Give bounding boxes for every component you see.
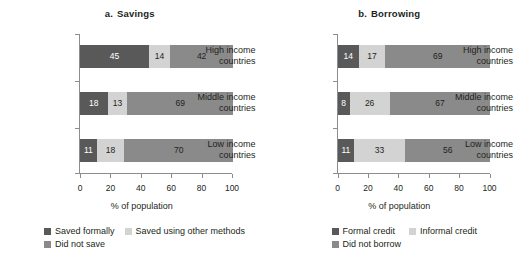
y-tick (75, 81, 79, 82)
legend-item-saved-formally: Saved formally (44, 226, 115, 236)
panel-letter: b. (358, 8, 367, 19)
legend-savings: Saved formally Saved using other methods… (44, 226, 260, 252)
x-tick-label: 0 (335, 183, 340, 193)
x-tick (490, 174, 491, 178)
legend-label: Did not save (55, 239, 105, 249)
panel-title-savings: a.Savings (0, 8, 260, 19)
legend-item-informal-credit: Informal credit (409, 226, 477, 236)
legend-label: Saved formally (55, 226, 115, 236)
stacked-bar-figure: a.Savings 0 20 40 60 80 100 45 14 (0, 0, 519, 263)
legend-swatch-icon (44, 228, 51, 235)
legend-swatch-icon (332, 228, 339, 235)
legend-label: Formal credit (343, 226, 396, 236)
category-label-line: countries (435, 103, 513, 114)
panel-savings: a.Savings 0 20 40 60 80 100 45 14 (0, 0, 260, 263)
legend-swatch-icon (332, 241, 339, 248)
x-tick-label: 20 (363, 183, 372, 193)
panel-title-text: Borrowing (371, 8, 420, 19)
bar-segment: 45 (80, 45, 149, 68)
x-axis-title: % of population (0, 201, 260, 211)
x-tick (80, 174, 81, 178)
legend-item-did-not-save: Did not save (44, 239, 105, 249)
y-tick (75, 128, 79, 129)
y-tick (75, 34, 79, 35)
x-tick (232, 174, 233, 178)
bar-segment: 14 (149, 45, 170, 68)
bar-segment: 11 (338, 139, 355, 162)
y-tick (75, 173, 79, 174)
legend-swatch-icon (125, 228, 132, 235)
category-label-line: countries (178, 150, 256, 161)
category-label-line: High income (435, 45, 513, 56)
legend-item-saved-other: Saved using other methods (125, 226, 246, 236)
x-tick (202, 174, 203, 178)
legend-item-formal-credit: Formal credit (332, 226, 396, 236)
bar-segment: 17 (359, 45, 385, 68)
category-label-line: countries (178, 56, 256, 67)
x-tick-label: 60 (424, 183, 433, 193)
legend-row: Did not borrow (332, 239, 519, 249)
x-tick (429, 174, 430, 178)
bar-segment: 26 (350, 92, 390, 115)
x-tick-label: 40 (136, 183, 145, 193)
x-tick-label: 80 (454, 183, 463, 193)
category-label-middle-income: Middle income countries (435, 92, 513, 114)
category-label-line: countries (435, 150, 513, 161)
bar-segment: 33 (354, 139, 404, 162)
panel-letter: a. (105, 8, 113, 19)
category-label-high-income: High income countries (178, 45, 256, 67)
bar-segment: 13 (108, 92, 128, 115)
legend-swatch-icon (409, 228, 416, 235)
panel-title-text: Savings (117, 8, 155, 19)
panel-borrowing: b.Borrowing 0 20 40 60 80 100 14 17 (260, 0, 519, 263)
legend-item-did-not-borrow: Did not borrow (332, 239, 402, 249)
category-label-line: countries (435, 56, 513, 67)
bar-segment: 18 (80, 92, 108, 115)
y-tick (333, 128, 337, 129)
x-tick-label: 60 (166, 183, 175, 193)
category-label-line: countries (178, 103, 256, 114)
category-label-line: Middle income (178, 92, 256, 103)
x-tick (368, 174, 369, 178)
category-label-line: Low income (178, 139, 256, 150)
bar-segment: 14 (338, 45, 359, 68)
bar-segment: 11 (80, 139, 97, 162)
x-axis-title: % of population (260, 201, 519, 211)
bar-segment: 18 (97, 139, 125, 162)
x-tick (171, 174, 172, 178)
legend-label: Saved using other methods (136, 226, 246, 236)
category-label-line: Middle income (435, 92, 513, 103)
category-label-line: High income (178, 45, 256, 56)
x-tick-label: 100 (482, 183, 496, 193)
category-label-low-income: Low income countries (435, 139, 513, 161)
x-tick-label: 100 (225, 183, 239, 193)
category-label-low-income: Low income countries (178, 139, 256, 161)
bar-segment: 8 (338, 92, 350, 115)
y-tick (333, 173, 337, 174)
x-tick (110, 174, 111, 178)
x-tick-label: 20 (106, 183, 115, 193)
category-label-line: Low income (435, 139, 513, 150)
legend-row: Saved formally Saved using other methods (44, 226, 260, 236)
legend-row: Did not save (44, 239, 260, 249)
x-axis-line (337, 173, 490, 174)
category-label-middle-income: Middle income countries (178, 92, 256, 114)
x-tick-label: 0 (78, 183, 83, 193)
legend-borrowing: Formal credit Informal credit Did not bo… (332, 226, 519, 252)
y-tick (333, 81, 337, 82)
x-tick (141, 174, 142, 178)
y-tick (333, 34, 337, 35)
x-tick-label: 40 (394, 183, 403, 193)
x-axis-line (79, 173, 232, 174)
legend-row: Formal credit Informal credit (332, 226, 519, 236)
x-tick-label: 80 (197, 183, 206, 193)
legend-swatch-icon (44, 241, 51, 248)
category-label-high-income: High income countries (435, 45, 513, 67)
x-tick (338, 174, 339, 178)
x-tick (459, 174, 460, 178)
legend-label: Informal credit (420, 226, 477, 236)
x-tick (398, 174, 399, 178)
legend-label: Did not borrow (343, 239, 402, 249)
panel-title-borrowing: b.Borrowing (260, 8, 519, 19)
